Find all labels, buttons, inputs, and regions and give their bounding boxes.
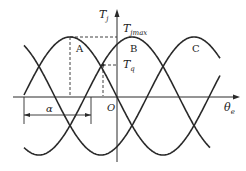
y-axis-label: Tj <box>99 8 109 23</box>
curve-c-label: C <box>192 43 200 54</box>
x-axis-label: θe <box>224 101 235 116</box>
y-axis-arrow-icon <box>115 9 120 17</box>
torque-phase-diagram: Tj Tjmax A B C Tq O α θe <box>0 0 246 171</box>
curve-c <box>24 37 220 155</box>
curve-a-label: A <box>75 43 84 54</box>
alpha-label: α <box>46 103 53 114</box>
alpha-right-arrow-icon <box>85 113 91 117</box>
curve-b-label: B <box>130 43 137 54</box>
x-axis-arrow-icon <box>233 95 240 100</box>
tq-label: Tq <box>123 58 135 73</box>
curve-a <box>24 37 220 155</box>
origin-label: O <box>107 102 115 113</box>
alpha-left-arrow-icon <box>24 113 30 117</box>
tq-point <box>101 63 104 66</box>
tjmax-label: Tjmax <box>123 22 147 37</box>
